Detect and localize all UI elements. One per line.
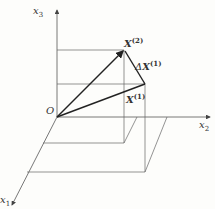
vector-x2-label: X(2) <box>124 37 143 49</box>
vector-x1-label: X(1) <box>126 93 145 105</box>
diagram-canvas <box>0 0 215 209</box>
origin-label: O <box>46 106 54 116</box>
vector-diagram: x3 x2 x1 O X(2) ΔX(1) X(1) <box>0 0 215 209</box>
x3-axis-label: x3 <box>33 6 43 19</box>
delta-vector-label: ΔX(1) <box>135 60 162 72</box>
axes <box>12 10 210 205</box>
x2-axis-label: x2 <box>199 120 209 133</box>
x1-axis-label: x1 <box>0 195 10 208</box>
x1-axis <box>12 117 57 205</box>
